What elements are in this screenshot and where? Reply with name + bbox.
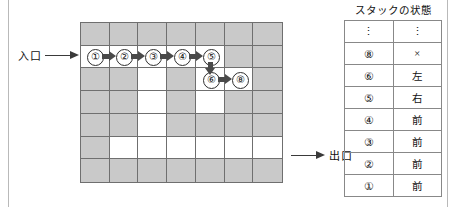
stack-cell-direction: 前 xyxy=(393,109,442,131)
stack-cell-step-id: ③ xyxy=(345,131,394,153)
maze-cell-4-6 xyxy=(225,91,254,114)
maze-cell-4-1 xyxy=(81,91,110,114)
maze-cell-1-7 xyxy=(253,23,282,46)
maze-cell-7-5 xyxy=(196,159,225,182)
stack-title: スタックの状態 xyxy=(344,2,442,17)
maze-cell-6-5 xyxy=(196,137,225,160)
maze-cell-7-3 xyxy=(138,159,167,182)
maze-cell-5-7 xyxy=(253,114,282,137)
maze-cell-7-4 xyxy=(167,159,196,182)
maze-cell-4-2 xyxy=(110,91,139,114)
stack-cell-direction: 左 xyxy=(393,65,442,87)
stack-cell-direction: ⋮ xyxy=(393,21,442,43)
maze-cell-6-7 xyxy=(253,137,282,160)
arrow-shaft xyxy=(291,155,317,156)
maze-cell-3-1 xyxy=(81,68,110,91)
stack-cell-step-id: ⑤ xyxy=(345,87,394,109)
arrow-shaft xyxy=(45,55,71,56)
maze-cell-6-6 xyxy=(225,137,254,160)
arrow-head xyxy=(316,151,325,159)
maze-cell-1-1 xyxy=(81,23,110,46)
entrance-label-group: 入口 xyxy=(18,47,79,63)
exit-arrow-icon xyxy=(291,151,325,160)
stack-table-row: ③前 xyxy=(345,131,442,153)
stack-cell-step-id: ① xyxy=(345,175,394,197)
maze-cell-3-7 xyxy=(253,68,282,91)
stack-table-row: ⑤右 xyxy=(345,87,442,109)
maze-cell-1-2 xyxy=(110,23,139,46)
stack-cell-direction: 前 xyxy=(393,153,442,175)
maze-cell-4-5 xyxy=(196,91,225,114)
maze-cell-5-4 xyxy=(167,114,196,137)
maze-cell-3-3 xyxy=(138,68,167,91)
diagram-canvas: 入口 出口 ①②③④⑤⑥⑧ スタックの状態 ⋮⋮⑧×⑥左⑤右④前③前②前①前 xyxy=(0,0,454,207)
page-frame-right-rule xyxy=(447,0,448,207)
maze-cell-3-2 xyxy=(110,68,139,91)
maze-cell-3-5 xyxy=(196,68,225,91)
stack-table-body: ⋮⋮⑧×⑥左⑤右④前③前②前①前 xyxy=(345,21,442,197)
exit-label-group: 出口 xyxy=(291,147,352,163)
maze-cell-1-6 xyxy=(225,23,254,46)
stack-cell-step-id: ④ xyxy=(345,109,394,131)
maze-cell-5-2 xyxy=(110,114,139,137)
maze-cell-2-2 xyxy=(110,46,139,69)
maze-cell-4-7 xyxy=(253,91,282,114)
maze-cell-2-3 xyxy=(138,46,167,69)
maze-cell-6-3 xyxy=(138,137,167,160)
stack-table-row: ④前 xyxy=(345,109,442,131)
stack-panel: スタックの状態 ⋮⋮⑧×⑥左⑤右④前③前②前①前 xyxy=(344,2,442,197)
arrow-head xyxy=(70,51,79,59)
maze-cell-1-4 xyxy=(167,23,196,46)
maze-cell-2-5 xyxy=(196,46,225,69)
maze-cell-7-2 xyxy=(110,159,139,182)
stack-table-row: ⋮⋮ xyxy=(345,21,442,43)
maze-cell-5-5 xyxy=(196,114,225,137)
maze-cell-2-4 xyxy=(167,46,196,69)
maze-cell-2-7 xyxy=(253,46,282,69)
maze-cell-5-3 xyxy=(138,114,167,137)
stack-table: ⋮⋮⑧×⑥左⑤右④前③前②前①前 xyxy=(344,20,442,197)
maze-cell-5-1 xyxy=(81,114,110,137)
stack-cell-direction: 前 xyxy=(393,175,442,197)
maze-cell-6-1 xyxy=(81,137,110,160)
maze-cell-1-3 xyxy=(138,23,167,46)
maze-cell-7-7 xyxy=(253,159,282,182)
stack-cell-direction: 前 xyxy=(393,131,442,153)
maze-cell-1-5 xyxy=(196,23,225,46)
stack-cell-step-id: ⋮ xyxy=(345,21,394,43)
maze-cell-6-4 xyxy=(167,137,196,160)
stack-cell-direction: 右 xyxy=(393,87,442,109)
maze-cell-3-6 xyxy=(225,68,254,91)
stack-cell-step-id: ⑥ xyxy=(345,65,394,87)
stack-table-row: ②前 xyxy=(345,153,442,175)
page-frame-left-rule xyxy=(8,0,9,207)
maze-cell-2-6 xyxy=(225,46,254,69)
maze-cell-7-1 xyxy=(81,159,110,182)
stack-cell-direction: × xyxy=(393,43,442,65)
maze-grid xyxy=(80,22,283,183)
maze-cell-7-6 xyxy=(225,159,254,182)
entrance-arrow-icon xyxy=(45,51,79,60)
stack-cell-step-id: ② xyxy=(345,153,394,175)
stack-cell-step-id: ⑧ xyxy=(345,43,394,65)
stack-table-row: ⑥左 xyxy=(345,65,442,87)
maze-cell-5-6 xyxy=(225,114,254,137)
maze-cell-2-1 xyxy=(81,46,110,69)
entrance-label: 入口 xyxy=(18,47,41,63)
maze-cell-4-3 xyxy=(138,91,167,114)
stack-table-row: ①前 xyxy=(345,175,442,197)
maze-cell-4-4 xyxy=(167,91,196,114)
maze-cell-3-4 xyxy=(167,68,196,91)
maze-cell-6-2 xyxy=(110,137,139,160)
stack-table-row: ⑧× xyxy=(345,43,442,65)
